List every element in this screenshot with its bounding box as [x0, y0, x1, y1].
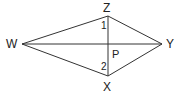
kite-diagram: Z W Y X P 1 2: [0, 0, 189, 100]
kite-outline: [22, 16, 162, 76]
label-p: P: [112, 48, 119, 60]
label-w: W: [6, 37, 18, 51]
label-y: Y: [166, 37, 174, 51]
label-z: Z: [103, 1, 110, 15]
angle-1-label: 1: [101, 20, 107, 31]
angle-2-label: 2: [101, 61, 107, 72]
label-x: X: [103, 80, 111, 94]
